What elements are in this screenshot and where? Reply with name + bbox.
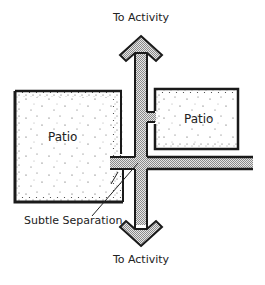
bottom-destination-label: To Activity xyxy=(0,253,265,266)
left-patio-label: Patio xyxy=(48,130,77,144)
patio-circulation-diagram xyxy=(0,0,265,285)
top-destination-label: To Activity xyxy=(0,11,265,24)
left-patio xyxy=(15,91,123,202)
right-patio-label: Patio xyxy=(184,112,213,126)
subtle-separation-label: Subtle Separation xyxy=(24,214,122,227)
